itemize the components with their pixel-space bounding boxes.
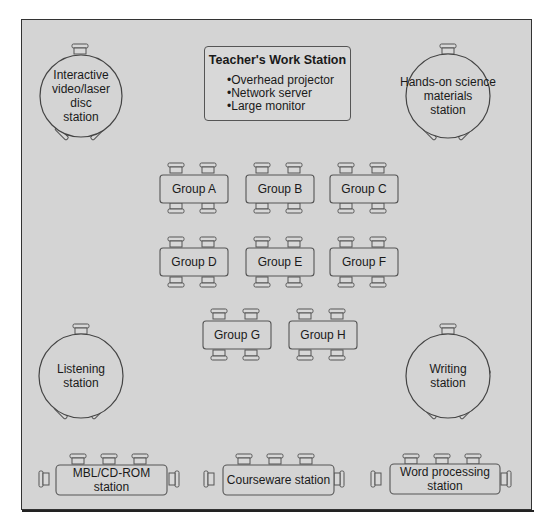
label-writing-station: Writing station: [407, 361, 489, 391]
label-line: station: [427, 479, 462, 493]
label-line: Listening: [57, 362, 105, 376]
label-line: station: [63, 110, 98, 124]
label-line: Interactive: [53, 68, 108, 82]
group-f-table: Group F: [330, 248, 398, 276]
teacher-work-station: Teacher's Work Station Overhead projecto…: [204, 46, 351, 121]
group-h-table: Group H: [289, 321, 357, 349]
mbl-cdrom-station: MBL/CD-ROM station: [56, 465, 167, 495]
group-e-table: Group E: [246, 248, 314, 276]
label-listening-station: Listening station: [40, 361, 122, 391]
group-g-table: Group G: [203, 321, 271, 349]
label-line: Hands-on science: [400, 75, 496, 89]
teacher-item-monitor: Large monitor: [227, 100, 350, 113]
label-interactive-station: Interactive video/laser disc station: [40, 74, 122, 118]
label-line: station: [430, 103, 465, 117]
group-b-table: Group B: [246, 175, 314, 203]
group-c-table: Group C: [330, 175, 398, 203]
word-processing-station: Word processing station: [390, 464, 500, 494]
teacher-station-items: Overhead projector Network server Large …: [205, 74, 350, 113]
label-science-station: Hands-on science materials station: [396, 74, 500, 118]
label-line: station: [63, 376, 98, 390]
teacher-station-title: Teacher's Work Station: [205, 53, 350, 67]
courseware-station: Courseware station: [223, 465, 334, 495]
label-line: materials: [424, 89, 473, 103]
label-line: video/laser disc: [40, 82, 122, 110]
label-line: Word processing: [400, 465, 490, 479]
label-line: Writing: [429, 362, 466, 376]
group-d-table: Group D: [160, 248, 228, 276]
label-line: station: [430, 376, 465, 390]
group-a-table: Group A: [160, 175, 228, 203]
